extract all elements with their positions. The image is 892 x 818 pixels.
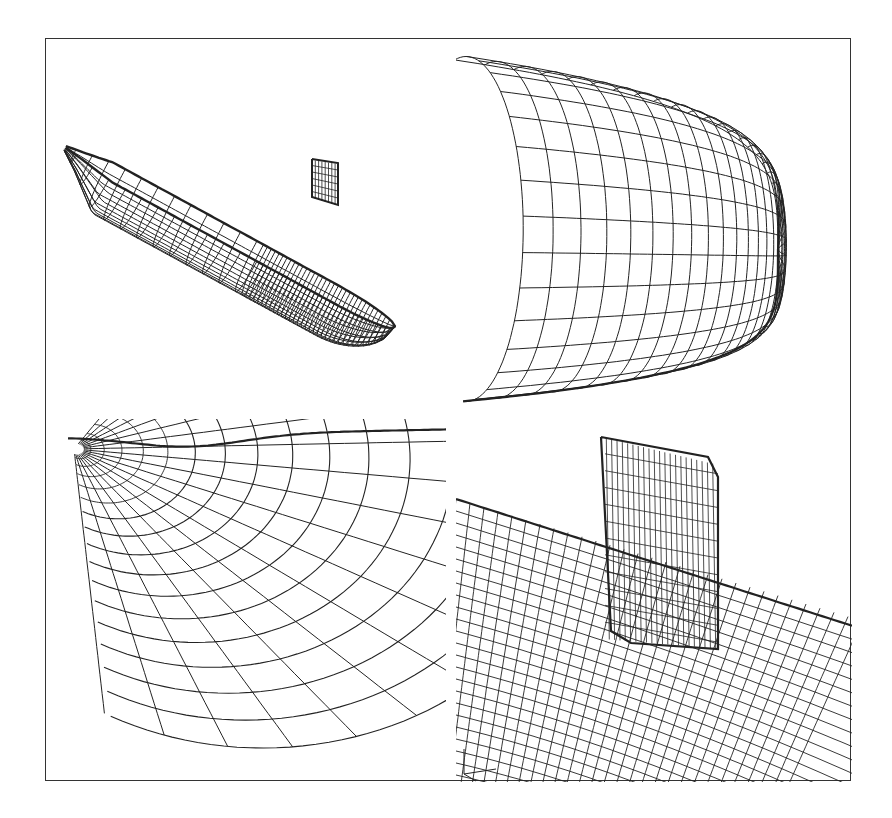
panel-full-hull: Full submarine hull with sail (isometric… xyxy=(46,39,456,419)
sail-mesh xyxy=(456,429,852,782)
bow-mesh xyxy=(456,39,852,429)
figure-frame: Full submarine hull with sail (isometric… xyxy=(45,38,851,781)
stern-mesh xyxy=(46,419,446,782)
full-hull-mesh xyxy=(46,39,456,419)
panel-stern-closeup: Close-up of stern / tail mesh xyxy=(46,419,446,782)
panel-bow-closeup: Close-up of bow mesh xyxy=(456,39,852,429)
panel-sail-closeup: Close-up of sail (fin) junction with hul… xyxy=(456,429,852,782)
